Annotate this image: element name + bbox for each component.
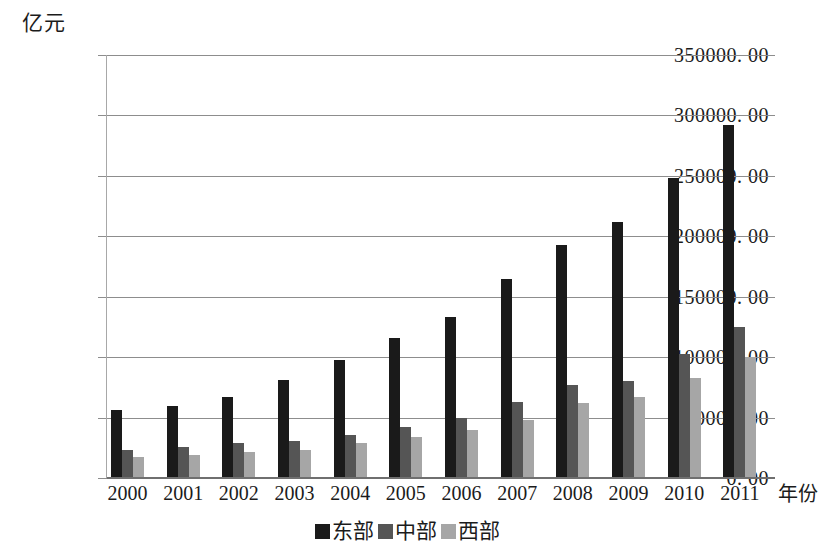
plot-area (107, 55, 775, 478)
bar-group (668, 55, 701, 478)
bar-西部 (467, 430, 478, 478)
bar-西部 (523, 420, 534, 478)
bar-chart: 亿元 350000. 00300000. 00250000. 00200000.… (0, 0, 819, 554)
bar-东部 (723, 125, 734, 478)
bar-东部 (222, 397, 233, 478)
bar-group (556, 55, 589, 478)
bar-东部 (612, 222, 623, 478)
bar-中部 (567, 385, 578, 478)
bar-group (389, 55, 422, 478)
x-axis-tick: 2004 (320, 482, 380, 504)
x-axis-tick: 2003 (265, 482, 325, 504)
bar-东部 (501, 279, 512, 478)
y-axis-unit-label: 亿元 (22, 6, 65, 36)
bar-西部 (634, 397, 645, 478)
bar-group (445, 55, 478, 478)
bar-东部 (445, 317, 456, 478)
bar-西部 (300, 450, 311, 478)
legend-swatch-icon (378, 524, 393, 539)
bar-group (222, 55, 255, 478)
bar-group (278, 55, 311, 478)
bar-东部 (111, 410, 122, 478)
bar-group (501, 55, 534, 478)
bar-东部 (167, 406, 178, 479)
bar-group (723, 55, 756, 478)
legend-item[interactable]: 东部 (315, 521, 374, 542)
y-axis-tick-mark (98, 478, 107, 479)
legend-item[interactable]: 西部 (441, 521, 500, 542)
bar-西部 (356, 443, 367, 478)
bar-西部 (244, 452, 255, 478)
bar-西部 (133, 457, 144, 478)
bar-东部 (556, 245, 567, 478)
x-axis-tick: 2009 (599, 482, 659, 504)
bar-group (167, 55, 200, 478)
legend-item[interactable]: 中部 (378, 521, 437, 542)
legend-label: 东部 (332, 521, 374, 542)
bar-西部 (690, 378, 701, 478)
x-axis-unit-label: 年份 (778, 478, 818, 507)
bar-西部 (745, 357, 756, 478)
bar-中部 (233, 443, 244, 478)
bar-中部 (345, 435, 356, 479)
bar-中部 (400, 427, 411, 478)
bar-中部 (456, 418, 467, 478)
bar-东部 (389, 338, 400, 478)
x-axis-tick: 2002 (209, 482, 269, 504)
bar-中部 (734, 327, 745, 478)
x-axis-tick: 2001 (153, 482, 213, 504)
x-axis-tick: 2008 (543, 482, 603, 504)
legend-swatch-icon (441, 524, 456, 539)
x-axis-tick: 2000 (98, 482, 158, 504)
bar-group (111, 55, 144, 478)
y-axis-line (106, 55, 107, 478)
bar-group (612, 55, 645, 478)
x-axis-tick: 2006 (432, 482, 492, 504)
legend-label: 中部 (395, 521, 437, 542)
x-axis-line (107, 477, 775, 479)
bar-中部 (679, 354, 690, 478)
legend-label: 西部 (458, 521, 500, 542)
bar-东部 (668, 178, 679, 478)
bar-东部 (278, 380, 289, 478)
bar-group (334, 55, 367, 478)
x-axis-tick: 2011 (710, 482, 770, 504)
bar-中部 (512, 402, 523, 478)
legend-swatch-icon (315, 524, 330, 539)
chart-legend: 东部中部西部 (0, 521, 819, 542)
bar-西部 (578, 403, 589, 478)
bar-中部 (289, 441, 300, 478)
x-axis-tick: 2010 (654, 482, 714, 504)
x-axis-tick: 2005 (376, 482, 436, 504)
bar-西部 (411, 437, 422, 478)
x-axis-tick: 2007 (487, 482, 547, 504)
bar-中部 (178, 447, 189, 478)
bar-中部 (122, 450, 133, 478)
bar-中部 (623, 381, 634, 478)
bar-西部 (189, 455, 200, 478)
bar-东部 (334, 360, 345, 478)
